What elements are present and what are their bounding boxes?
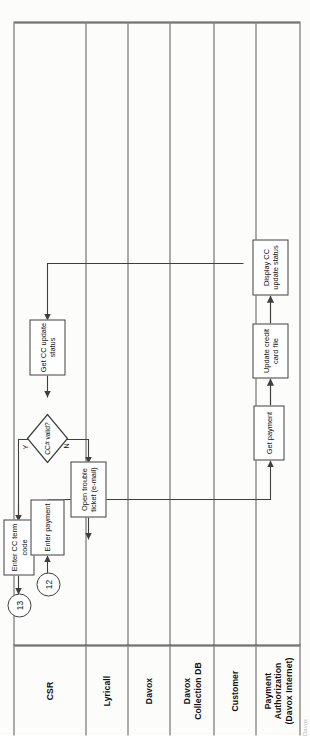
swimlane-davox-collection-db: Davox Collection DB [170,22,214,735]
swimlane-payment-authorization: Payment Authorization (Davox Internet) [256,22,300,735]
branch-label-no: N [62,443,69,448]
flow-node-enter-cc-term-code[interactable]: Enter CC term code [3,519,34,575]
connector-label: 13 [14,600,24,609]
node-label: Update credit card file [261,326,279,375]
node-label: Display CC update status [261,242,279,292]
flow-node-enter-payment[interactable]: Enter payment [30,499,64,555]
swimlane-davox: Davox [128,22,170,735]
swimlane-label-payment-authorization: Payment Authorization (Davox Internet) [256,645,299,735]
node-label: Enter CC term code [9,522,27,572]
swimlane-lyricall: Lyricall [86,22,128,735]
flow-node-open-trouble-ticket[interactable]: Open trouble ticket (e-mail) [70,461,106,517]
node-label: Get CC update status [38,322,56,372]
swimlane-label-davox: Davox [128,645,169,735]
flow-node-get-payment[interactable]: Get payment [253,405,284,460]
flow-node-update-credit-card-file[interactable]: Update credit card file [252,323,288,378]
swimlane-label-divider [13,644,300,645]
flow-node-cc-valid-decision[interactable]: CC# valid? [26,413,68,463]
flow-node-get-cc-update-status[interactable]: Get CC update status [29,319,65,375]
connector-label: 12 [43,579,53,588]
node-label: Get payment [264,411,273,453]
swimlane-grid: CSR Lyricall Davox Davox Collection DB [13,22,300,735]
swimlane-label-csr: CSR [14,645,85,735]
flow-connector-13[interactable]: 13 [7,593,31,617]
node-label: Open trouble ticket (e-mail) [79,464,97,514]
node-label: Enter payment [42,503,51,551]
swimlane-label-lyricall: Lyricall [86,645,127,735]
page-edge-artifact-text: Davox [302,719,308,736]
swimlane-body-lyricall [86,22,127,645]
swimlane-customer: Customer [214,22,256,735]
flow-connector-12[interactable]: 12 [36,572,60,596]
swimlane-right-edge [13,21,300,22]
branch-label-yes: Y [21,444,28,449]
swimlane-label-davox-collection-db: Davox Collection DB [170,645,213,735]
swimlane-body-customer [214,22,255,645]
swimlane-label-customer: Customer [214,645,255,735]
swimlane-body-davox-collection-db [170,22,213,645]
diamond-shape [26,413,68,463]
flow-node-display-cc-update-status[interactable]: Display CC update status [252,239,288,295]
swimlane-csr: CSR [13,22,86,735]
swimlane-body-davox [128,22,169,645]
